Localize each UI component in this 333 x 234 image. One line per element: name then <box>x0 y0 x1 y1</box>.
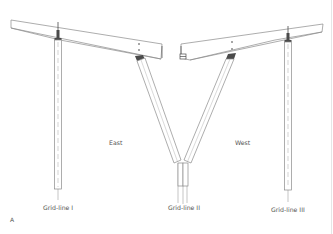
base-grid-line-2 <box>178 163 188 204</box>
diagram-svg: East West Grid-line I Grid-line II Grid-… <box>0 0 333 234</box>
roof-wing-left <box>11 20 162 59</box>
west-label: West <box>235 139 251 146</box>
grid-line-2-label: Grid-line II <box>168 204 200 211</box>
strut-left <box>135 43 181 163</box>
roof-wing-right <box>181 24 323 60</box>
page-edge-divider <box>331 0 332 234</box>
panel-label: A <box>10 216 15 223</box>
grid-line-3-label: Grid-line III <box>271 206 305 213</box>
column-grid-line-3 <box>285 26 292 202</box>
column-grid-line-1 <box>55 22 62 200</box>
east-label: East <box>109 139 123 146</box>
grid-line-1-label: Grid-line I <box>43 204 73 211</box>
elevation-diagram: East West Grid-line I Grid-line II Grid-… <box>0 0 333 234</box>
